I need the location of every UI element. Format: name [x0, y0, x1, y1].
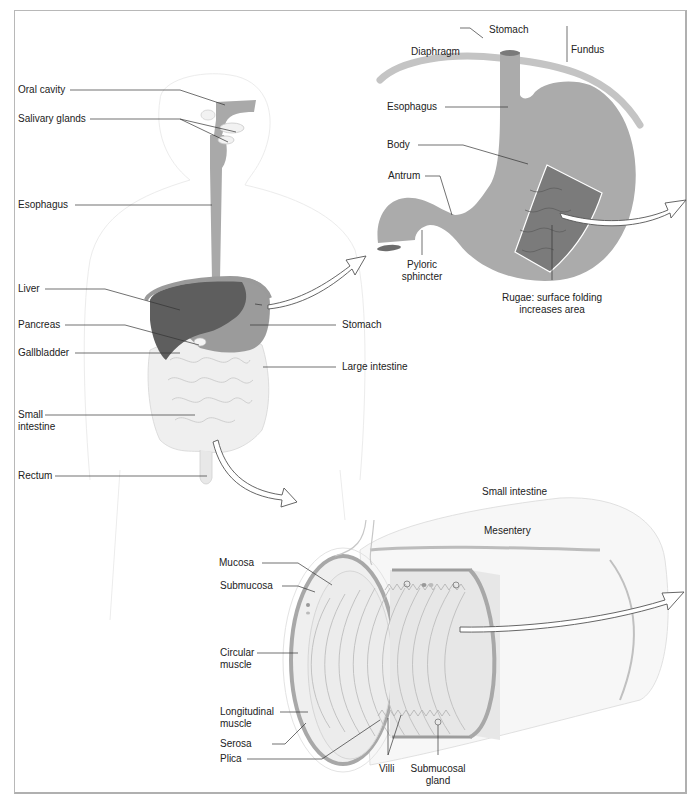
label-serosa: Serosa [220, 738, 252, 750]
label-diaphragm: Diaphragm [411, 46, 460, 58]
label-submucosal-line2: gland [408, 775, 468, 787]
label-mesentery: Mesentery [484, 525, 531, 537]
stomach-panel-title: Stomach [489, 24, 528, 36]
upper-tract [201, 100, 256, 280]
label-circular-line2: muscle [220, 659, 252, 671]
label-small-intestine-line2: intestine [18, 421, 55, 433]
label-plica: Plica [220, 753, 242, 765]
label-antrum: Antrum [388, 170, 420, 182]
stomach-detail [377, 50, 640, 281]
label-large-intestine: Large intestine [342, 361, 408, 373]
label-pyloric-line2: sphincter [398, 271, 446, 283]
small-intestine-panel-title: Small intestine [482, 486, 547, 498]
liver-stomach [146, 278, 270, 360]
label-esophagus-stomach: Esophagus [387, 101, 437, 113]
label-rugae-line1: Rugae: surface folding [492, 292, 612, 304]
label-liver: Liver [18, 283, 40, 295]
digestive-system-illustration [0, 0, 699, 804]
label-rectum: Rectum [18, 470, 52, 482]
label-body: Body [387, 139, 410, 151]
label-pyloric-line1: Pyloric [402, 259, 442, 271]
label-villi: Villi [379, 763, 394, 775]
small-intestine-detail [283, 498, 668, 772]
label-submucosa: Submucosa [220, 580, 273, 592]
label-longitudinal-line2: muscle [220, 718, 252, 730]
label-mucosa: Mucosa [219, 557, 254, 569]
label-stomach: Stomach [342, 319, 381, 331]
label-esophagus: Esophagus [18, 199, 68, 211]
label-pancreas: Pancreas [18, 319, 60, 331]
label-salivary-glands: Salivary glands [18, 113, 86, 125]
label-circular-line1: Circular [220, 647, 254, 659]
label-submucosal-line1: Submucosal [408, 763, 468, 775]
label-longitudinal-line1: Longitudinal [220, 706, 274, 718]
label-fundus: Fundus [571, 44, 604, 56]
label-rugae-line2: increases area [492, 304, 612, 316]
label-small-intestine-line1: Small [18, 409, 43, 421]
label-oral-cavity: Oral cavity [18, 84, 65, 96]
label-gallbladder: Gallbladder [18, 347, 69, 359]
